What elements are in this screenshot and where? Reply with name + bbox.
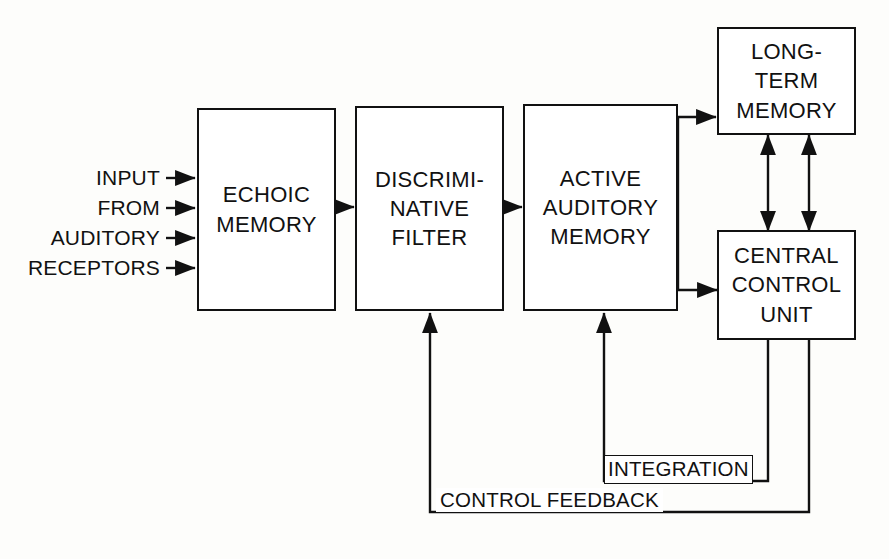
node-long-term-memory[interactable]: LONG- TERM MEMORY [717,27,856,135]
edge-label-control-feedback: CONTROL FEEDBACK [436,488,663,512]
input-label-receptors: RECEPTORS [28,256,160,280]
input-label-input: INPUT [96,166,160,190]
node-echoic-memory[interactable]: ECHOIC MEMORY [197,108,336,311]
node-active-auditory-memory-label: ACTIVE AUDITORY MEMORY [543,164,658,251]
node-long-term-memory-label: LONG- TERM MEMORY [736,37,836,124]
node-central-control-unit[interactable]: CENTRAL CONTROL UNIT [717,230,856,340]
input-label-auditory: AUDITORY [51,226,160,250]
node-active-auditory-memory[interactable]: ACTIVE AUDITORY MEMORY [523,104,678,311]
edge-label-integration: INTEGRATION [604,455,753,484]
input-label-from: FROM [97,196,160,220]
diagram-canvas: INPUT FROM AUDITORY RECEPTORS ECHOIC MEM… [0,0,889,559]
node-central-control-unit-label: CENTRAL CONTROL UNIT [732,241,842,328]
node-discriminative-filter[interactable]: DISCRIMI- NATIVE FILTER [355,106,504,311]
node-echoic-memory-label: ECHOIC MEMORY [216,180,316,238]
node-discriminative-filter-label: DISCRIMI- NATIVE FILTER [375,165,484,252]
